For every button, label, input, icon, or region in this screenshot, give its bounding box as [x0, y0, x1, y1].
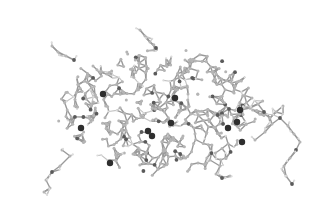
molecule-rendering — [0, 0, 322, 214]
molecule-structure — [0, 0, 322, 214]
atoms — [43, 27, 302, 196]
